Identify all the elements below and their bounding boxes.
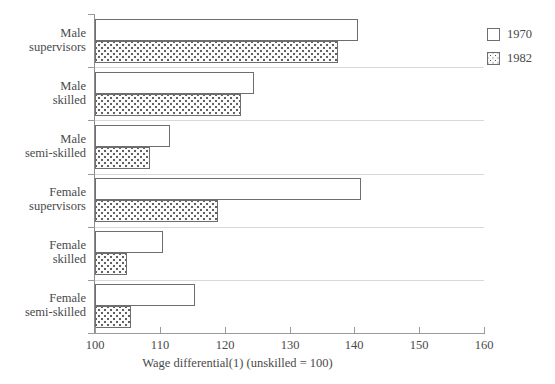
category-label-group: Female skilled	[0, 238, 88, 266]
y-axis-tick	[88, 333, 95, 334]
category-label: Female skilled	[0, 238, 86, 266]
category-label: Female supervisors	[0, 185, 86, 213]
y-axis-tick	[88, 14, 95, 15]
x-axis-tick-label: 110	[151, 338, 169, 353]
category-label: Male skilled	[0, 79, 86, 107]
x-axis-tick-label: 150	[410, 338, 429, 353]
bar-1970-female-skilled	[95, 231, 163, 253]
x-axis-line	[94, 333, 484, 334]
group-separator	[94, 120, 484, 121]
legend: 1970 1982	[487, 28, 532, 76]
group-separator	[94, 174, 484, 175]
y-axis-tick	[88, 174, 95, 175]
category-label-group: Female supervisors	[0, 185, 88, 213]
legend-swatch-1982-icon	[487, 52, 500, 65]
bar-1970-male-semi-skilled	[95, 125, 170, 147]
category-label-group: Male skilled	[0, 79, 88, 107]
x-axis-tick	[484, 327, 485, 334]
group-separator	[94, 227, 484, 228]
group-separator	[94, 280, 484, 281]
bar-1982-male-skilled	[95, 94, 241, 116]
x-axis-title: Wage differential(1) (unskilled = 100)	[0, 356, 555, 371]
bar-1970-female-supervisors	[95, 178, 361, 200]
bar-1982-male-supervisors	[95, 41, 338, 63]
bar-1982-female-semi-skilled	[95, 306, 131, 328]
category-label-group: Male semi-skilled	[0, 132, 88, 160]
bar-1970-female-semi-skilled	[95, 284, 195, 306]
category-label-group: Female semi-skilled	[0, 291, 88, 319]
category-label: Male semi-skilled	[0, 132, 86, 160]
category-label: Female semi-skilled	[0, 291, 86, 319]
x-axis-tick-label: 120	[216, 338, 235, 353]
group-separator	[94, 67, 484, 68]
x-axis-tick-label: 130	[281, 338, 300, 353]
wage-differential-bar-chart: Male supervisorsMale skilledMale semi-sk…	[0, 0, 555, 384]
legend-label-1970: 1970	[507, 28, 532, 41]
category-label: Male supervisors	[0, 26, 86, 54]
y-axis-tick	[88, 120, 95, 121]
x-axis-tick	[225, 327, 226, 334]
x-axis-tick	[419, 327, 420, 334]
x-axis-tick	[95, 327, 96, 334]
legend-item-1970[interactable]: 1970	[487, 28, 532, 41]
y-axis-tick	[88, 227, 95, 228]
x-axis-tick-label: 140	[345, 338, 364, 353]
bar-1970-male-skilled	[95, 72, 254, 94]
bar-1982-female-skilled	[95, 253, 127, 275]
legend-item-1982[interactable]: 1982	[487, 52, 532, 65]
x-axis-tick	[290, 327, 291, 334]
bar-1970-male-supervisors	[95, 19, 358, 41]
x-axis-tick-label: 160	[475, 338, 494, 353]
y-axis-tick	[88, 67, 95, 68]
legend-swatch-1970-icon	[487, 28, 500, 41]
x-axis-title-text: Wage differential(1) (unskilled = 100)	[142, 356, 332, 370]
bar-1982-female-supervisors	[95, 200, 218, 222]
bar-1982-male-semi-skilled	[95, 147, 150, 169]
x-axis-tick-label: 100	[86, 338, 105, 353]
x-axis-tick	[354, 327, 355, 334]
category-label-group: Male supervisors	[0, 26, 88, 54]
y-axis-tick	[88, 280, 95, 281]
legend-label-1982: 1982	[507, 52, 532, 65]
x-axis-tick	[160, 327, 161, 334]
